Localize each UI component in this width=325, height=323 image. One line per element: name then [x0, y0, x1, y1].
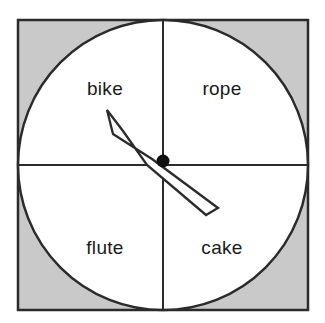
section-label-cake: cake [201, 237, 242, 258]
section-label-flute: flute [86, 237, 123, 258]
spinner-canvas: bike rope flute cake [0, 0, 325, 323]
section-label-rope: rope [202, 78, 241, 99]
spinner-pivot-dot [157, 155, 170, 168]
spinner-figure: bike rope flute cake [0, 0, 325, 323]
section-label-bike: bike [87, 78, 123, 99]
